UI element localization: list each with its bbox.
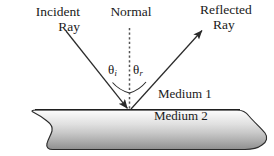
medium-2-slab [32, 110, 267, 150]
normal-label-text: Normal [110, 4, 151, 19]
angle-arc-incident [113, 83, 130, 94]
theta-incidence-subscript: i [114, 68, 117, 78]
medium-2-label: Medium 2 [154, 109, 208, 124]
angle-of-incidence-label: θi [108, 62, 117, 78]
medium-1-label: Medium 1 [158, 87, 212, 102]
reflected-ray-label: Reflected Ray [200, 2, 272, 32]
reflected-ray-label-line2: Ray [200, 17, 272, 32]
reflected-ray-label-line1: Reflected [200, 2, 252, 17]
incident-ray-line [66, 31, 127, 108]
angle-arc-reflected [130, 82, 147, 93]
incident-ray-label-line1: Incident [36, 4, 80, 19]
medium-2-label-text: Medium 2 [154, 108, 208, 123]
normal-label: Normal [101, 4, 161, 19]
angle-of-reflection-label: θr [133, 62, 143, 78]
incident-ray-label: Incident Ray [14, 4, 80, 34]
reflection-diagram: Incident Ray Normal Reflected Ray Medium… [0, 0, 274, 156]
medium-1-label-text: Medium 1 [158, 86, 212, 101]
theta-reflection-subscript: r [139, 68, 143, 78]
incident-ray-label-line2: Ray [14, 19, 80, 34]
